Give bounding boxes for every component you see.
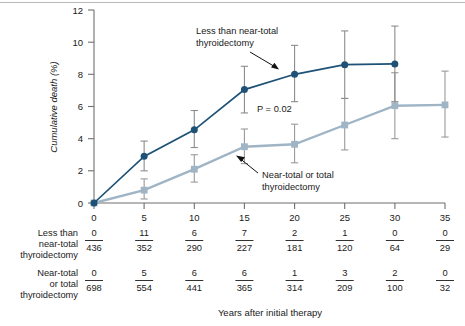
y-tick-label-6: 6	[78, 101, 83, 112]
y-axis-title: Cumulative death (%)	[48, 61, 59, 152]
data-point-marker	[291, 141, 298, 148]
risk-cell-denominator: 100	[387, 283, 403, 293]
data-point-marker	[241, 143, 248, 150]
risk-cell-numerator: 2	[392, 268, 397, 278]
risk-row-1-label-line2: near-total	[39, 239, 78, 249]
data-point-marker	[141, 187, 148, 194]
series-1-errorbars	[141, 26, 399, 171]
risk-cell-denominator: 314	[287, 283, 303, 293]
data-point-marker	[141, 153, 148, 160]
risk-row-2-label-line2: or total	[50, 279, 78, 289]
data-point-marker	[442, 101, 449, 108]
y-axis: 12 10 8 6 4 2 0 Cumulative death (%)	[48, 5, 94, 209]
risk-cell-denominator: 29	[440, 243, 450, 253]
risk-cell-numerator: 6	[192, 268, 197, 278]
y-tick-label-4: 4	[78, 133, 83, 144]
x-tick-label-10: 10	[189, 212, 200, 223]
annotation-series-2-callout: Near-total or total thyroidectomy	[236, 156, 334, 193]
risk-cell-numerator: 0	[392, 228, 397, 238]
risk-cell-denominator: 227	[237, 243, 253, 253]
risk-cell-denominator: 698	[86, 283, 102, 293]
risk-table-row-1: Less than near-total thyroidectomy 04361…	[20, 228, 454, 260]
data-point-marker	[391, 102, 398, 109]
risk-cell-numerator: 2	[292, 228, 297, 238]
risk-table-row-2: Near-total or total thyroidectomy 069855…	[20, 268, 454, 300]
risk-row-2-cells: 0698555464416365131432092100032	[85, 268, 454, 293]
y-tick-label-10: 10	[72, 37, 83, 48]
risk-row-2-label-line3: thyroidectomy	[20, 290, 78, 300]
risk-cell-numerator: 0	[442, 228, 447, 238]
annotation-series-1-callout: Less than near-total thyroidectomy	[196, 26, 279, 70]
series-2-callout-line2: thyroidectomy	[262, 182, 320, 192]
x-axis: 0 5 10 15 20 25 30 35 Years after initia…	[91, 203, 450, 318]
risk-cell-numerator: 11	[139, 228, 149, 238]
series-1-callout-line1: Less than near-total	[196, 26, 278, 36]
data-point-marker	[191, 126, 198, 133]
series-1-callout-arrowhead-icon	[271, 63, 279, 70]
y-tick-label-8: 8	[78, 69, 83, 80]
risk-table: Less than near-total thyroidectomy 04361…	[20, 228, 454, 300]
x-tick-label-30: 30	[390, 212, 401, 223]
risk-cell-denominator: 290	[187, 243, 203, 253]
risk-cell-numerator: 1	[292, 268, 297, 278]
x-tick-label-20: 20	[289, 212, 300, 223]
data-point-marker	[191, 166, 198, 173]
x-tick-label-35: 35	[440, 212, 451, 223]
risk-cell-numerator: 1	[342, 228, 347, 238]
series-less-than-near-total	[91, 26, 399, 206]
series-2-callout-line1: Near-total or total	[262, 170, 334, 180]
risk-cell-denominator: 436	[86, 243, 102, 253]
figure-container: 12 10 8 6 4 2 0 Cumulative death (%) 0 5…	[0, 0, 465, 326]
x-tick-label-5: 5	[141, 212, 146, 223]
risk-row-1-label-line1: Less than	[38, 228, 78, 238]
data-point-marker	[291, 71, 298, 78]
data-point-marker	[241, 86, 248, 93]
risk-cell-denominator: 32	[440, 283, 450, 293]
data-point-marker	[341, 61, 348, 68]
risk-row-1-label-line3: thyroidectomy	[20, 250, 78, 260]
risk-cell-numerator: 0	[442, 268, 447, 278]
risk-cell-denominator: 365	[237, 283, 253, 293]
risk-row-1-cells: 0436113526290722721811120064029	[85, 228, 454, 253]
p-value-label: P = 0.02	[257, 104, 292, 114]
y-tick-label-0: 0	[78, 198, 83, 209]
risk-cell-numerator: 7	[242, 228, 247, 238]
data-point-marker	[91, 200, 98, 207]
risk-cell-denominator: 181	[287, 243, 303, 253]
x-tick-label-0: 0	[91, 212, 96, 223]
survival-chart-svg: 12 10 8 6 4 2 0 Cumulative death (%) 0 5…	[0, 0, 465, 326]
risk-cell-numerator: 6	[192, 228, 197, 238]
data-point-marker	[391, 60, 398, 67]
risk-cell-numerator: 6	[242, 268, 247, 278]
risk-cell-denominator: 64	[390, 243, 400, 253]
risk-cell-numerator: 3	[342, 268, 347, 278]
risk-cell-denominator: 209	[337, 283, 353, 293]
risk-cell-numerator: 0	[91, 268, 96, 278]
risk-row-2-label-line1: Near-total	[37, 268, 78, 278]
x-tick-label-15: 15	[239, 212, 250, 223]
x-tick-label-25: 25	[339, 212, 350, 223]
y-tick-label-2: 2	[78, 165, 83, 176]
risk-cell-denominator: 554	[136, 283, 152, 293]
data-point-marker	[341, 122, 348, 129]
risk-cell-numerator: 5	[142, 268, 147, 278]
risk-cell-denominator: 120	[337, 243, 353, 253]
risk-cell-numerator: 0	[91, 228, 96, 238]
risk-cell-denominator: 441	[187, 283, 203, 293]
y-tick-label-12: 12	[72, 5, 83, 16]
series-1-callout-line2: thyroidectomy	[196, 38, 254, 48]
x-axis-title: Years after initial therapy	[218, 307, 322, 318]
risk-cell-denominator: 352	[136, 243, 152, 253]
